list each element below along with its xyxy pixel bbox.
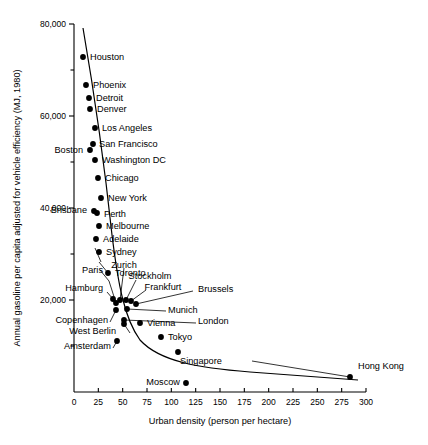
- x-tick-label: 150: [213, 397, 227, 407]
- data-point: [124, 306, 130, 312]
- x-tick-label: 25: [94, 397, 104, 407]
- x-tick-label: 100: [164, 397, 178, 407]
- data-point: [83, 82, 89, 88]
- data-point: [121, 321, 127, 327]
- point-label: London: [198, 316, 229, 326]
- x-tick-label: 125: [189, 397, 203, 407]
- data-point: [95, 175, 101, 181]
- data-point: [94, 210, 100, 216]
- data-point: [90, 141, 96, 147]
- point-label: Singapore: [180, 356, 222, 366]
- point-label: Houston: [90, 52, 124, 62]
- x-axis-title: Urban density (person per hectare): [149, 416, 291, 426]
- data-point: [87, 147, 93, 153]
- point-label: Frankfurt: [145, 282, 182, 292]
- point-labels-group: HoustonPhoenixDetroitDenverLos AngelesSa…: [51, 52, 404, 386]
- x-tick-label: 50: [118, 397, 128, 407]
- point-label: Boston: [54, 145, 83, 155]
- point-label: Amsterdam: [64, 341, 111, 351]
- point-label: Washington DC: [102, 155, 166, 165]
- data-point: [96, 249, 102, 255]
- point-label: Hong Kong: [358, 361, 404, 371]
- x-tick-label: 200: [262, 397, 276, 407]
- data-point: [114, 338, 120, 344]
- data-point: [183, 380, 189, 386]
- point-label: Phoenix: [93, 80, 127, 90]
- point-label: Vienna: [147, 318, 176, 328]
- point-label: Zurich: [111, 260, 137, 270]
- point-label: Perth: [104, 209, 126, 219]
- point-label: Tokyo: [168, 332, 192, 342]
- data-point: [123, 297, 129, 303]
- point-label: Adelaide: [103, 234, 139, 244]
- point-label: Moscow: [146, 377, 180, 387]
- point-label: Denver: [97, 104, 127, 114]
- point-label: Detroit: [96, 93, 124, 103]
- data-point: [128, 298, 134, 304]
- data-point: [175, 349, 181, 355]
- point-label: Copenhagen: [55, 315, 108, 325]
- data-point: [158, 334, 164, 340]
- leader-line-hongkong: [252, 361, 350, 377]
- point-label: Brisbane: [51, 205, 87, 215]
- data-point: [86, 95, 92, 101]
- data-point: [87, 106, 93, 112]
- point-label: Los Angeles: [102, 123, 152, 133]
- point-label: West Berlin: [69, 326, 116, 336]
- point-label: New York: [108, 193, 147, 203]
- data-point: [93, 236, 99, 242]
- leader-line-brussels: [136, 291, 193, 304]
- point-label: Stockholm: [129, 271, 172, 281]
- point-label: Melbourne: [106, 221, 149, 231]
- y-tick-label: 60,000: [40, 111, 66, 121]
- x-tick-label: 175: [237, 397, 251, 407]
- x-tick-label: 225: [286, 397, 300, 407]
- data-point: [133, 301, 139, 307]
- scatter-chart: 80,00060,00040,00020,000 025507510012515…: [0, 0, 428, 445]
- point-label: Paris: [82, 265, 103, 275]
- x-tick-label: 75: [142, 397, 152, 407]
- point-label: Brussels: [198, 284, 234, 294]
- data-point: [113, 307, 119, 313]
- x-tick-label: 250: [310, 397, 324, 407]
- data-point: [80, 54, 86, 60]
- point-label: Sydney: [106, 247, 137, 257]
- y-tick-label: 20,000: [40, 295, 66, 305]
- x-tick-label: 275: [335, 397, 349, 407]
- x-tick-label: 0: [72, 397, 77, 407]
- data-point: [92, 157, 98, 163]
- point-label: San Francisco: [99, 139, 158, 149]
- x-tick-label: 300: [359, 397, 373, 407]
- data-point: [98, 195, 104, 201]
- point-label: Munich: [168, 305, 198, 315]
- y-tick-label: 80,000: [40, 19, 66, 29]
- data-point: [347, 374, 353, 380]
- y-tick-group: 80,00060,00040,00020,000: [40, 19, 74, 346]
- data-point: [117, 297, 123, 303]
- y-axis-title: Annual gasoline per capita adjusted for …: [12, 69, 22, 346]
- plot-area: 80,00060,00040,00020,000 025507510012515…: [0, 0, 428, 445]
- leader-line-munich: [127, 309, 166, 311]
- data-point: [137, 320, 143, 326]
- data-point: [105, 270, 111, 276]
- x-tick-group: 0255075100125150175200225250275300: [72, 388, 374, 407]
- point-label: Hamburg: [65, 283, 103, 293]
- data-point: [92, 125, 98, 131]
- point-label: Chicago: [105, 173, 139, 183]
- leader-line-stockholm: [126, 280, 136, 300]
- data-point: [96, 223, 102, 229]
